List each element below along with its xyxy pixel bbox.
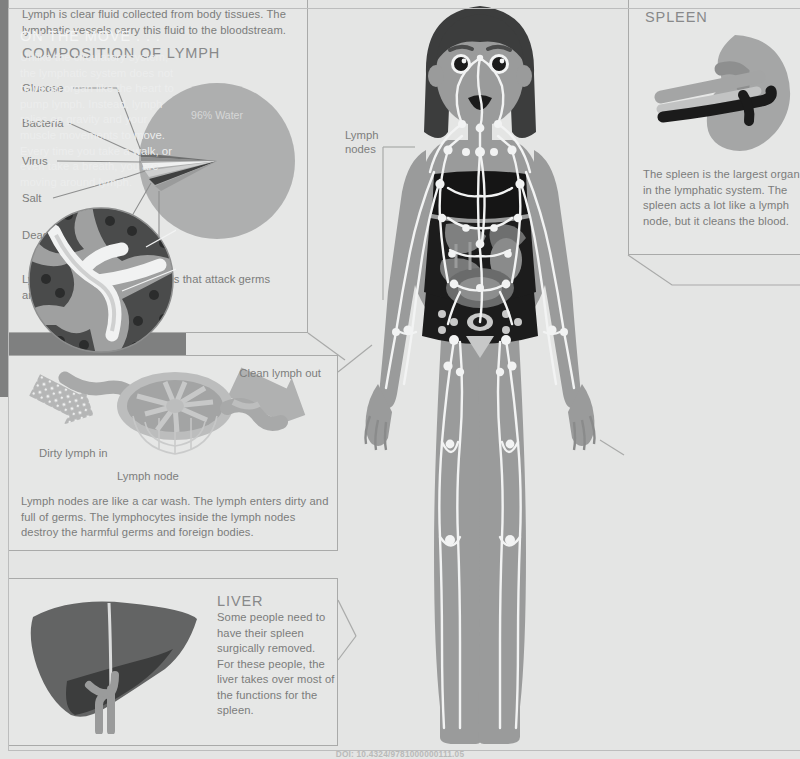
lymph-vessel-microscopic-detail xyxy=(26,205,176,355)
on-the-move-panel: ON THE MOVE . . . Unlike the circulatory… xyxy=(0,0,186,397)
on-the-move-heading: ON THE MOVE . . . xyxy=(20,28,161,44)
infographic-page: Lymph nodes Lymph is clear fluid collect… xyxy=(0,0,800,759)
on-the-move-description: Unlike the circulatory system, the lymph… xyxy=(20,50,186,190)
doi-footer: DOI: 10.4324/9781000000111.05 xyxy=(0,749,800,759)
